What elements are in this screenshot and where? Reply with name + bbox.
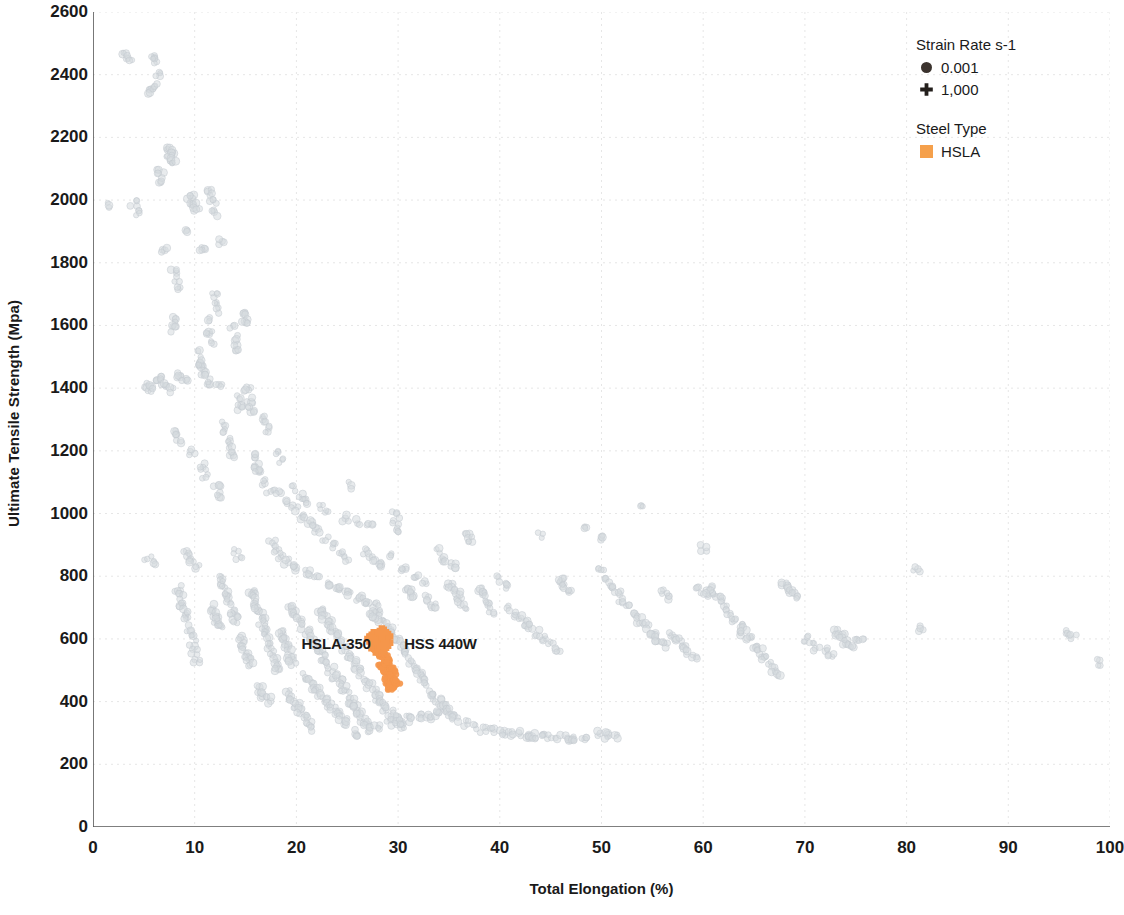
chart-legend: Strain Rate s-10.0011,000Steel TypeHSLA xyxy=(916,36,1106,182)
legend-item[interactable]: HSLA xyxy=(916,140,1106,162)
y-tick-label: 1600 xyxy=(30,315,88,335)
legend-block: Steel TypeHSLA xyxy=(916,120,1106,162)
color-swatch-icon xyxy=(916,141,936,161)
x-tick-label: 40 xyxy=(490,838,509,858)
y-tick-label: 1400 xyxy=(30,378,88,398)
point-annotation: HSLA-350 xyxy=(301,635,370,652)
x-tick-label: 20 xyxy=(287,838,306,858)
y-tick-label: 1800 xyxy=(30,253,88,273)
legend-title: Steel Type xyxy=(916,120,1106,137)
x-tick-label: 50 xyxy=(592,838,611,858)
x-tick-label: 80 xyxy=(897,838,916,858)
legend-item-label: 0.001 xyxy=(941,59,979,76)
y-tick-label: 400 xyxy=(30,692,88,712)
x-tick-label: 60 xyxy=(694,838,713,858)
plus-marker-icon xyxy=(916,79,936,99)
y-axis-tick-labels: 0200400600800100012001400160018002000220… xyxy=(22,0,88,915)
legend-block: Strain Rate s-10.0011,000 xyxy=(916,36,1106,100)
x-axis-title: Total Elongation (%) xyxy=(93,880,1110,897)
y-tick-label: 2000 xyxy=(30,190,88,210)
y-tick-label: 1000 xyxy=(30,504,88,524)
x-tick-label: 0 xyxy=(88,838,97,858)
legend-item-label: HSLA xyxy=(941,143,980,160)
circle-marker-icon xyxy=(916,57,936,77)
x-tick-label: 10 xyxy=(185,838,204,858)
y-tick-label: 2400 xyxy=(30,65,88,85)
x-tick-label: 100 xyxy=(1096,838,1124,858)
y-tick-label: 800 xyxy=(30,566,88,586)
legend-title: Strain Rate s-1 xyxy=(916,36,1106,53)
x-tick-label: 70 xyxy=(795,838,814,858)
y-tick-label: 200 xyxy=(30,754,88,774)
x-tick-label: 30 xyxy=(389,838,408,858)
legend-item[interactable]: 0.001 xyxy=(916,56,1106,78)
y-tick-label: 1200 xyxy=(30,441,88,461)
y-tick-label: 0 xyxy=(30,817,88,837)
legend-item-label: 1,000 xyxy=(941,81,979,98)
legend-item[interactable]: 1,000 xyxy=(916,78,1106,100)
y-tick-label: 2600 xyxy=(30,2,88,22)
y-tick-label: 2200 xyxy=(30,127,88,147)
point-annotation: HSS 440W xyxy=(404,635,477,652)
y-axis-title: Ultimate Tensile Strength (Mpa) xyxy=(0,0,26,827)
y-tick-label: 600 xyxy=(30,629,88,649)
x-tick-label: 90 xyxy=(999,838,1018,858)
y-axis-title-text: Ultimate Tensile Strength (Mpa) xyxy=(5,300,22,527)
